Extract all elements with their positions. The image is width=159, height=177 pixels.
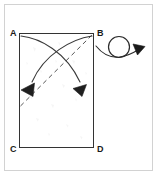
turn-over-arrowhead: [133, 44, 145, 55]
turn-over-tail-curve: [96, 46, 138, 57]
diagram-canvas: [0, 0, 159, 177]
vertex-label-b: B: [97, 29, 104, 38]
turn-over-loop-circle: [109, 37, 130, 58]
origami-diagram-figure: A B C D: [0, 0, 159, 177]
vertex-label-a: A: [10, 29, 17, 38]
vertex-label-c: C: [10, 145, 17, 154]
vertex-label-d: D: [97, 145, 104, 154]
